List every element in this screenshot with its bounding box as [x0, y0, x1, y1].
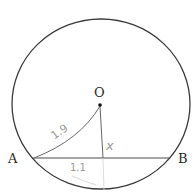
label-b: B	[178, 151, 188, 166]
label-o: O	[94, 85, 105, 100]
perpendicular-oc	[100, 106, 103, 158]
annotation-radius: 1.9	[49, 122, 71, 143]
annotation-x: x	[105, 138, 114, 153]
faint-sketch-arc	[72, 176, 96, 185]
circle-diagram: O A B 1.9 x 1.1	[0, 0, 196, 194]
center-point	[98, 103, 102, 107]
perpendicular-extension	[103, 158, 104, 190]
label-a: A	[7, 151, 18, 166]
annotation-half-chord: 1.1	[70, 162, 86, 173]
